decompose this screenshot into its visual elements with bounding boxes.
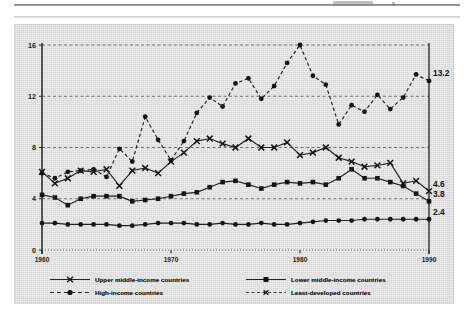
data-point <box>414 191 419 196</box>
data-point <box>181 150 187 156</box>
series-end-label: 3.8 <box>433 189 445 199</box>
data-point <box>182 139 187 144</box>
data-point <box>65 175 71 181</box>
data-point <box>375 93 380 98</box>
data-point <box>259 186 264 191</box>
data-point <box>220 104 225 109</box>
data-point <box>272 182 277 187</box>
data-point <box>169 221 174 226</box>
data-point <box>233 145 239 151</box>
x-tick-label: 1970 <box>164 256 179 263</box>
legend-label-high-income: High-income countries <box>95 289 163 296</box>
data-point <box>324 182 329 187</box>
data-point <box>336 155 342 161</box>
data-point <box>246 182 251 187</box>
data-point <box>349 103 354 108</box>
data-point <box>336 122 341 127</box>
y-tick-label: 8 <box>32 143 36 152</box>
data-point <box>117 183 123 189</box>
data-point <box>285 61 290 66</box>
data-point <box>78 222 83 227</box>
legend-item-lower-middle-income[interactable]: Lower middle-income countries <box>244 275 386 284</box>
data-point <box>220 141 226 147</box>
x-tick-label: 1990 <box>422 256 437 263</box>
data-point <box>233 81 238 86</box>
data-point <box>323 82 328 87</box>
data-point <box>117 223 122 228</box>
data-point <box>155 170 161 176</box>
data-point <box>427 199 432 204</box>
data-point <box>40 221 45 226</box>
data-point <box>195 190 200 195</box>
data-point <box>53 221 58 226</box>
data-point <box>401 184 406 189</box>
data-point <box>375 176 380 181</box>
data-point <box>91 194 96 199</box>
data-point <box>285 180 290 185</box>
data-point <box>349 218 354 223</box>
data-point <box>40 193 45 198</box>
legend-item-least-developed[interactable]: Least-developed countries <box>244 288 371 297</box>
data-point <box>272 222 277 227</box>
data-point <box>169 194 174 199</box>
data-point <box>336 176 341 181</box>
data-point <box>298 221 303 226</box>
data-point <box>91 222 96 227</box>
data-point <box>427 78 432 83</box>
data-point <box>117 194 122 199</box>
data-point <box>130 223 135 228</box>
data-point <box>349 167 354 172</box>
y-tick-label: 0 <box>32 246 36 255</box>
data-point <box>207 222 212 227</box>
data-point <box>414 72 419 77</box>
series-line <box>42 45 429 178</box>
y-tick-label: 4 <box>32 194 36 203</box>
legend-label-upper-middle-income: Upper middle-income countries <box>95 276 189 283</box>
data-point <box>285 222 290 227</box>
page-root: 0481216196019701980199013.24.63.82.4 Upp… <box>0 0 466 331</box>
chart-legend: Upper middle-income countries Lower midd… <box>48 275 408 303</box>
data-point <box>143 222 148 227</box>
legend-item-upper-middle-income[interactable]: Upper middle-income countries <box>48 275 189 284</box>
series-end-label: 4.6 <box>433 179 445 189</box>
data-point <box>182 221 187 226</box>
data-point <box>401 217 406 222</box>
y-tick-label: 12 <box>28 92 36 101</box>
data-point <box>362 176 367 181</box>
data-point <box>130 199 135 204</box>
data-point <box>78 196 83 201</box>
data-point <box>66 203 71 208</box>
data-point <box>233 222 238 227</box>
legend-swatch-upper-middle-income <box>48 275 92 284</box>
data-point <box>194 111 199 116</box>
data-point <box>182 191 187 196</box>
data-point <box>65 169 70 174</box>
data-point <box>52 180 58 186</box>
data-point <box>311 73 316 78</box>
data-point <box>104 222 109 227</box>
data-point <box>375 217 380 222</box>
series-upper-middle-income-countries: 4.6 <box>39 136 445 194</box>
legend-label-lower-middle-income: Lower middle-income countries <box>291 276 386 283</box>
data-point <box>401 95 406 100</box>
series-line <box>42 169 429 205</box>
data-point <box>53 176 58 181</box>
series-line <box>42 139 429 192</box>
data-point <box>427 217 432 222</box>
legend-swatch-high-income <box>48 288 92 297</box>
legend-item-high-income[interactable]: High-income countries <box>48 288 163 297</box>
data-point <box>156 196 161 201</box>
data-point <box>130 159 135 164</box>
data-point <box>311 180 316 185</box>
data-point <box>323 218 328 223</box>
data-point <box>272 84 277 89</box>
data-point <box>233 179 238 184</box>
series-least-developed-countries: 2.4 <box>40 207 445 228</box>
data-point <box>65 222 70 227</box>
data-point <box>246 76 251 81</box>
data-point <box>336 218 341 223</box>
data-point <box>194 222 199 227</box>
data-point <box>298 181 303 186</box>
data-point <box>104 194 109 199</box>
data-point <box>156 137 161 142</box>
